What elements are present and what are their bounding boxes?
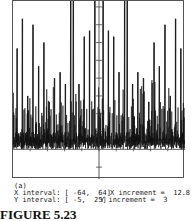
figure-label: FIGURE 5.23: [0, 207, 77, 221]
plot-area: [12, 0, 184, 178]
spike-plot: [13, 1, 185, 179]
y-increment-label: Y increment = 3: [100, 197, 167, 204]
y-interval-label: Y interval: [ -5, 25]: [14, 197, 107, 204]
